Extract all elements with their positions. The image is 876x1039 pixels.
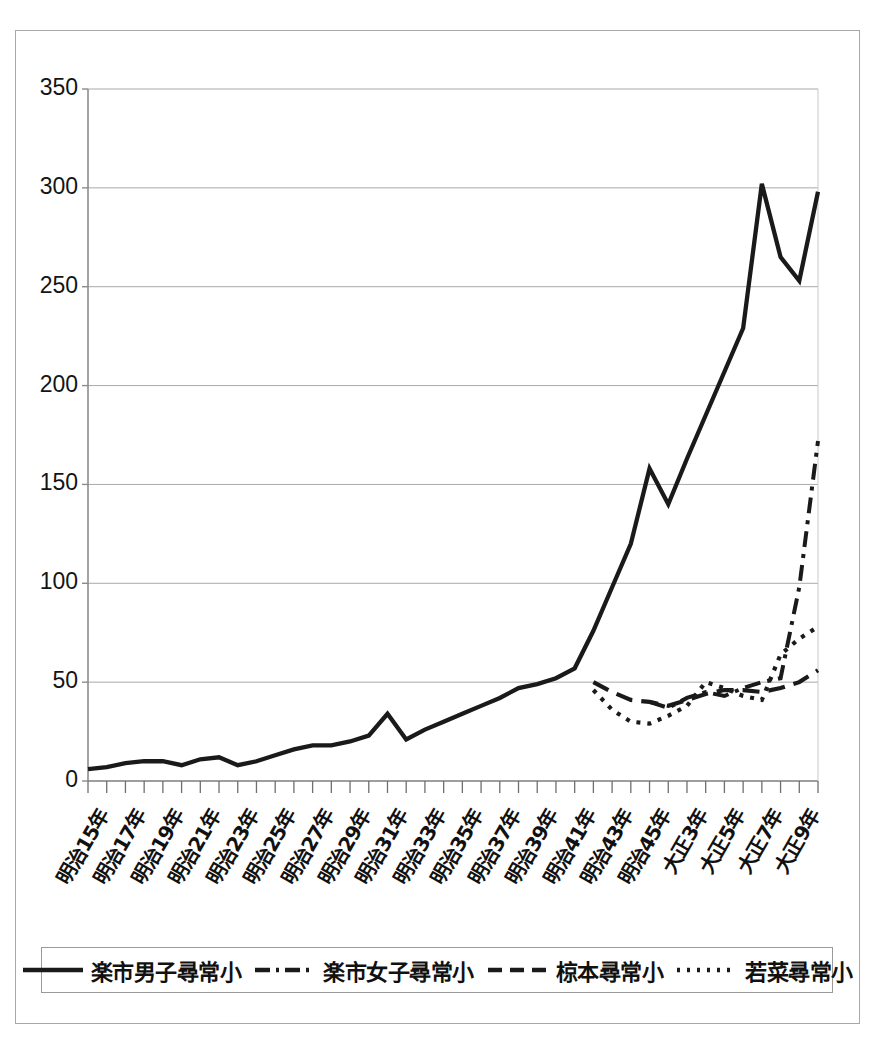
series-line-dashdot — [650, 441, 818, 708]
y-axis-label-200: 200 — [20, 371, 78, 398]
y-axis-label-0: 0 — [20, 766, 78, 793]
y-axis-label-250: 250 — [20, 272, 78, 299]
y-axis-label-350: 350 — [20, 74, 78, 101]
dotted-line-icon — [676, 963, 738, 977]
data-series-group — [88, 184, 818, 769]
y-axis-label-150: 150 — [20, 469, 78, 496]
legend-entry-1: 楽市女子尋常小 — [254, 954, 474, 986]
y-axis-label-50: 50 — [20, 667, 78, 694]
y-axis-label-300: 300 — [20, 173, 78, 200]
series-line-dotted — [593, 627, 818, 724]
legend-entry-2: 椋本尋常小 — [487, 954, 664, 986]
legend-label-1: 楽市女子尋常小 — [323, 954, 474, 986]
dash-dot-line-icon — [254, 963, 316, 977]
solid-line-icon — [22, 963, 84, 977]
legend-entry-3: 若菜尋常小 — [676, 954, 853, 986]
legend-label-3: 若菜尋常小 — [745, 954, 853, 986]
chart-page: 050100150200250300350 明治15年明治17年明治19年明治2… — [0, 0, 876, 1039]
x-ticks-group — [88, 781, 818, 793]
dashed-line-icon — [487, 963, 549, 977]
legend-label-0: 楽市男子尋常小 — [91, 954, 242, 986]
axes-group — [82, 89, 818, 781]
chart-legend: 楽市男子尋常小楽市女子尋常小椋本尋常小若菜尋常小 — [41, 947, 833, 993]
gridlines-group — [88, 89, 818, 781]
y-axis-label-100: 100 — [20, 568, 78, 595]
series-line-solid — [88, 184, 818, 769]
series-line-dashed — [593, 670, 818, 706]
legend-entry-0: 楽市男子尋常小 — [22, 954, 242, 986]
legend-label-2: 椋本尋常小 — [556, 954, 664, 986]
